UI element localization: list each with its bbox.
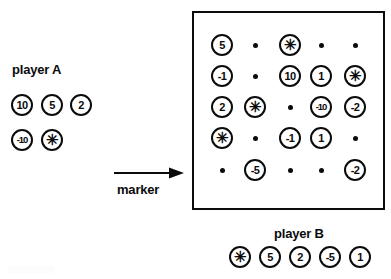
player-b-token-5-value-token[interactable]: 1 [349,246,371,268]
board-cell-r3c4-value-token[interactable]: -10 [310,96,332,118]
board-cell-r2c2-empty-dot[interactable] [253,74,258,79]
board-cell-r2c4-value-token[interactable]: 1 [310,65,332,87]
board-cell-r1c4-empty-dot[interactable] [319,43,324,48]
board-cell-r1c2-empty-dot[interactable] [253,43,258,48]
player-a-token-1-1-value-token[interactable]: 10 [11,94,33,116]
board-cell-r4c4-value-token[interactable]: 1 [310,127,332,149]
board-cell-r3c3-empty-dot[interactable] [288,105,293,110]
player-a-token-2-2-star-token[interactable]: ✳ [41,129,63,151]
marker-arrow-icon [113,166,185,182]
board-cell-r3c1-value-token[interactable]: 2 [211,96,233,118]
board-cell-r2c1-value-token[interactable]: -1 [211,65,233,87]
player-a-token-1-3-value-token[interactable]: 2 [70,94,92,116]
board-cell-r5c2-value-token[interactable]: -5 [244,159,266,181]
player-a-token-2-1-value-token[interactable]: -10 [11,129,33,151]
player-b-token-3-value-token[interactable]: 2 [289,246,311,268]
board-cell-r1c5-empty-dot[interactable] [353,43,358,48]
scan-artifact [8,266,54,273]
board-cell-r4c5-empty-dot[interactable] [353,136,358,141]
marker-label: marker [117,182,159,197]
player-b-label: player B [274,226,324,241]
player-a-token-1-2-value-token[interactable]: 5 [41,94,63,116]
board-cell-r1c1-value-token[interactable]: 5 [211,34,233,56]
figure-canvas: player A 1052-10✳ marker 5✳-1101✳2✳-10-2… [0,0,391,279]
board-cell-r2c3-value-token[interactable]: 10 [279,65,301,87]
board-cell-r5c5-value-token[interactable]: -2 [344,159,366,181]
player-a-label: player A [12,62,61,77]
board-cell-r2c5-star-token[interactable]: ✳ [344,65,366,87]
board-cell-r3c2-star-token[interactable]: ✳ [244,96,266,118]
player-b-token-2-value-token[interactable]: 5 [259,246,281,268]
board-cell-r5c3-empty-dot[interactable] [288,168,293,173]
player-b-token-1-star-token[interactable]: ✳ [229,246,251,268]
board-cell-r4c1-star-token[interactable]: ✳ [211,127,233,149]
board-cell-r4c2-empty-dot[interactable] [253,136,258,141]
board-cell-r1c3-star-token[interactable]: ✳ [279,34,301,56]
board-cell-r5c4-empty-dot[interactable] [319,168,324,173]
board-cell-r3c5-value-token[interactable]: -2 [344,96,366,118]
player-b-token-4-value-token[interactable]: -5 [319,246,341,268]
board-cell-r5c1-empty-dot[interactable] [220,168,225,173]
board-cell-r4c3-value-token[interactable]: -1 [279,127,301,149]
